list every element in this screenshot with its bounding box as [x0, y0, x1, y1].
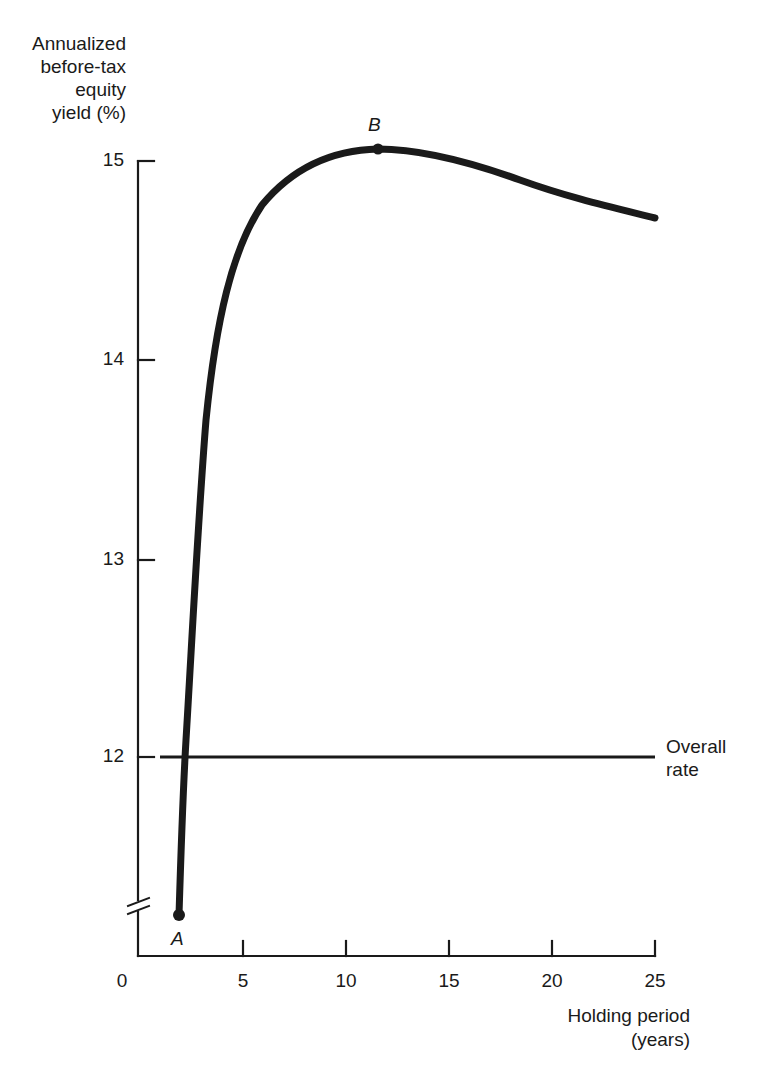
chart-plot-area	[0, 0, 772, 1082]
point-a-marker	[173, 909, 185, 921]
point-b-marker	[373, 144, 384, 155]
yield-curve	[179, 149, 655, 915]
